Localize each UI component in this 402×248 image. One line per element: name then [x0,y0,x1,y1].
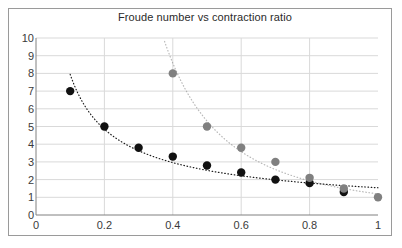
trendline-upper-series [165,41,378,193]
y-tick-label: 3 [12,156,34,168]
y-tick-label: 10 [12,32,34,44]
chart-plot-area [0,0,402,248]
x-tick-label: 1 [358,219,398,231]
x-tick-label: 0.4 [153,219,193,231]
x-tick-label: 0.8 [290,219,330,231]
y-tick-label: 8 [12,67,34,79]
x-tick-label: 0.2 [84,219,124,231]
data-point [237,168,245,176]
y-axis-tick-labels: 012345678910 [8,0,34,248]
data-point [374,193,382,201]
y-tick-label: 7 [12,85,34,97]
data-point [100,122,108,130]
y-tick-label: 5 [12,121,34,133]
x-tick-label: 0.6 [221,219,261,231]
data-point [169,69,177,77]
data-point [340,184,348,192]
x-tick-label: 0 [16,219,56,231]
data-point [169,152,177,160]
y-tick-label: 4 [12,138,34,150]
y-tick-label: 1 [12,191,34,203]
x-axis-tick-labels: 00.20.40.60.81 [0,219,402,237]
data-point [203,122,211,130]
data-point [271,175,279,183]
y-tick-label: 9 [12,50,34,62]
data-point [237,144,245,152]
y-tick-label: 2 [12,174,34,186]
trendlines [70,41,378,193]
data-points [66,69,382,201]
data-point [305,174,313,182]
data-point [271,158,279,166]
data-point [134,144,142,152]
y-tick-label: 6 [12,103,34,115]
data-point [66,87,74,95]
data-point [203,161,211,169]
